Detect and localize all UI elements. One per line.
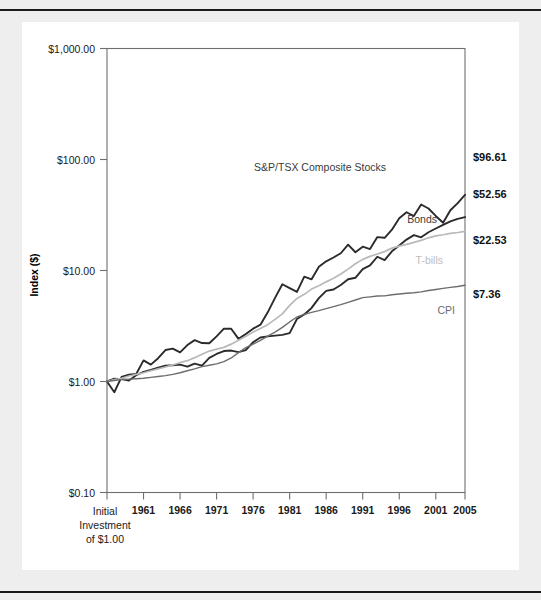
x-tick-label: 1981 <box>278 504 302 516</box>
end-value-label: $7.36 <box>473 288 501 300</box>
x-axis-ticks: 1961196619711976198119861991199620012005 <box>107 493 477 516</box>
series-label-cpi: CPI <box>437 304 455 316</box>
growth-of-one-dollar-chart: $0.10$1.00$10.00$100.00$1,000.00 1961196… <box>0 0 541 600</box>
x-origin-caption-line1: Initial <box>93 505 118 517</box>
plot-frame <box>107 49 465 493</box>
end-value-label: $22.53 <box>473 234 507 246</box>
x-tick-label: 1966 <box>168 504 192 516</box>
x-origin-caption-line3: of $1.00 <box>86 533 124 545</box>
x-tick-label: 1961 <box>132 504 156 516</box>
y-axis-title: Index ($) <box>28 253 40 296</box>
x-tick-label: 1976 <box>241 504 265 516</box>
series-label-t-bills: T-bills <box>416 254 443 266</box>
x-tick-label: 1971 <box>205 504 229 516</box>
series-label-bonds: Bonds <box>407 213 437 225</box>
series-line-bonds <box>107 217 465 381</box>
x-tick-label: 1996 <box>388 504 412 516</box>
y-tick-label: $100.00 <box>57 154 95 166</box>
series-line-t-bills <box>107 231 465 381</box>
y-tick-label: $10.00 <box>63 265 95 277</box>
x-tick-label: 2005 <box>453 504 477 516</box>
x-tick-label: 2001 <box>424 504 448 516</box>
y-axis-ticks: $0.10$1.00$10.00$100.00$1,000.00 <box>48 43 107 499</box>
x-origin-caption-line2: Investment <box>79 519 130 531</box>
end-value-label: $52.56 <box>473 188 507 200</box>
end-value-label: $96.61 <box>473 151 507 163</box>
y-tick-label: $1.00 <box>69 376 95 388</box>
series-label-s-p-tsx-composite-stocks: S&P/TSX Composite Stocks <box>254 161 386 173</box>
x-tick-label: 1991 <box>351 504 375 516</box>
y-tick-label: $1,000.00 <box>48 43 95 55</box>
end-value-labels: $96.61$52.56$22.53$7.36 <box>473 151 507 300</box>
x-tick-label: 1986 <box>315 504 339 516</box>
chart-svg: $0.10$1.00$10.00$100.00$1,000.00 1961196… <box>0 0 541 600</box>
y-tick-label: $0.10 <box>69 487 95 499</box>
